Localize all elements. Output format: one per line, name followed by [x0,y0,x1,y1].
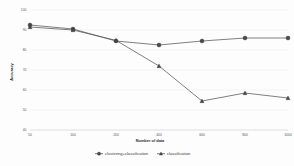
y-tick-label: 70 [23,68,27,72]
y-tick-label: 40 [23,128,27,132]
legend-label: clustering+classification [105,151,149,156]
y-axis-title: Accuracy [9,62,14,80]
series-line [30,25,288,45]
y-tick-label: 50 [23,108,27,112]
legend-label: classification [167,151,191,156]
x-tick-label: 800 [242,133,248,137]
data-series [28,25,290,103]
x-tick-label: 100 [70,133,76,137]
data-point-marker [286,36,290,40]
gridlines [30,10,288,130]
x-tick-label: 600 [199,133,205,137]
y-tick-label: 80 [23,48,27,52]
x-tick-label: 400 [156,133,162,137]
legend-item[interactable]: clustering+classification [95,151,149,156]
data-point-marker [157,43,161,47]
y-axis-tick-labels: 405060708090100 [21,8,27,132]
y-tick-label: 100 [21,8,27,12]
x-axis-tick-labels: 501002004006008001000 [28,133,292,137]
y-tick-label: 90 [23,28,27,32]
data-point-marker [243,36,247,40]
x-tick-label: 200 [113,133,119,137]
data-point-marker [200,39,204,43]
data-point-marker [97,152,100,155]
data-point-marker [157,64,161,68]
y-tick-label: 60 [23,88,27,92]
x-tick-label: 50 [28,133,32,137]
x-axis-title: Number of data [136,138,165,143]
line-chart: 405060708090100 501002004006008001000 Ac… [0,0,294,166]
series-layer [28,23,290,103]
x-tick-label: 1000 [284,133,292,137]
legend-item[interactable]: classification [157,151,191,156]
data-series [28,23,290,47]
chart-figure: 405060708090100 501002004006008001000 Ac… [0,0,294,166]
chart-legend: clustering+classificationclassification [95,151,191,156]
